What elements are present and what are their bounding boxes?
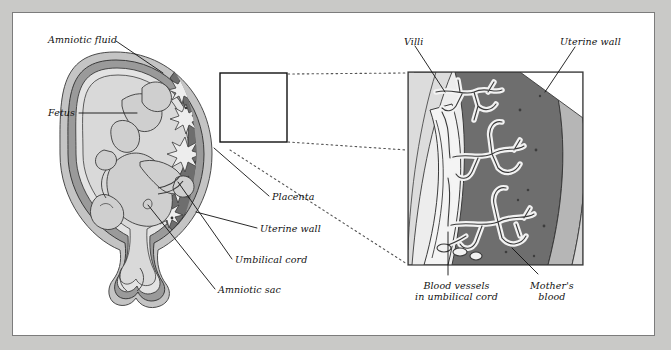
label-umbilical-cord: Umbilical cord	[235, 254, 307, 265]
label-amniotic-sac: Amniotic sac	[218, 284, 281, 295]
uterus-group	[60, 52, 212, 308]
figure-stage: Amniotic fluid Fetus Placenta Uterine wa…	[0, 0, 671, 350]
inset-selection-box	[220, 73, 287, 142]
label-uterine-wall: Uterine wall	[260, 223, 321, 234]
label-villi: Villi	[404, 36, 423, 47]
label-fetus: Fetus	[48, 107, 75, 118]
leader-placenta	[214, 148, 269, 196]
magnifier-connectors	[230, 73, 407, 264]
detail-panel	[408, 72, 585, 265]
label-uterine-wall-detail: Uterine wall	[560, 36, 621, 47]
label-blood-vessels-umbilical: Blood vessels in umbilical cord	[415, 280, 498, 302]
label-placenta: Placenta	[272, 191, 314, 202]
label-amniotic-fluid: Amniotic fluid	[48, 34, 117, 45]
label-mothers-blood: Mother's blood	[530, 280, 574, 302]
